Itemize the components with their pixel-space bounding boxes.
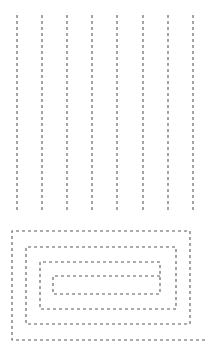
raster-zigzag-group: [17, 15, 193, 211]
rectangular-spiral-path: [12, 231, 205, 340]
rectangular-spiral-group: [12, 231, 205, 340]
toolpath-canvas: [0, 0, 217, 351]
toolpath-figure: [0, 0, 217, 351]
